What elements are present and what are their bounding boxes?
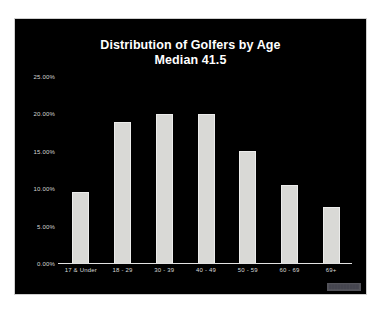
y-axis-tick-label: 20.00% — [33, 111, 55, 117]
bar-slot — [269, 77, 311, 263]
y-axis-tick-label: 15.00% — [33, 149, 55, 155]
x-axis-category-label: 17 & Under — [60, 267, 102, 273]
x-axis-category-label: 50 - 59 — [227, 267, 269, 273]
bar-slot — [310, 77, 352, 263]
plot-area: 25.00%20.00%15.00%10.00%5.00%0.00% — [60, 77, 352, 264]
bar[interactable] — [281, 185, 298, 263]
bar[interactable] — [239, 151, 256, 263]
bar-series — [60, 77, 352, 263]
bar[interactable] — [114, 122, 131, 263]
bar-slot — [227, 77, 269, 263]
watermark-text: ██████████ — [327, 283, 361, 291]
y-axis-tick-label: 25.00% — [33, 74, 55, 80]
x-axis-category-label: 60 - 69 — [269, 267, 311, 273]
x-axis-category-labels: 17 & Under18 - 2930 - 3940 - 4950 - 5960… — [60, 267, 352, 273]
bar[interactable] — [198, 114, 215, 263]
x-axis-category-label: 40 - 49 — [185, 267, 227, 273]
y-axis-tick-label: 5.00% — [37, 224, 55, 230]
bar[interactable] — [323, 207, 340, 263]
y-axis-tick-label: 10.00% — [33, 186, 55, 192]
bar[interactable] — [156, 114, 173, 263]
y-axis-tick-label: 0.00% — [37, 261, 55, 267]
chart-subtitle: Median 41.5 — [14, 53, 367, 68]
bar-slot — [143, 77, 185, 263]
bar[interactable] — [72, 192, 89, 263]
x-axis-line — [58, 263, 352, 264]
x-axis-category-label: 30 - 39 — [143, 267, 185, 273]
bar-slot — [60, 77, 102, 263]
chart-title: Distribution of Golfers by Age — [14, 38, 367, 53]
slide-frame: Distribution of Golfers by Age Median 41… — [14, 18, 367, 295]
bar-slot — [102, 77, 144, 263]
x-axis-category-label: 18 - 29 — [102, 267, 144, 273]
x-axis-category-label: 69+ — [310, 267, 352, 273]
bar-slot — [185, 77, 227, 263]
title-block: Distribution of Golfers by Age Median 41… — [14, 38, 367, 68]
